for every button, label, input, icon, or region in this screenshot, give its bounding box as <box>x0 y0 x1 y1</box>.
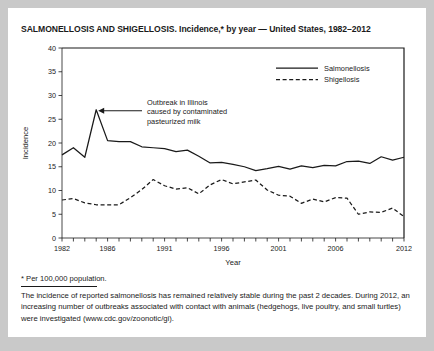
x-tick-label: 2012 <box>396 244 412 253</box>
series-line-shigellosis <box>62 180 404 217</box>
y-tick-label: 35 <box>48 67 56 76</box>
x-tick-label: 1991 <box>157 244 173 253</box>
y-tick-label: 40 <box>48 44 56 53</box>
annotation-arrow-head <box>98 108 104 114</box>
legend: SalmonellosisShigellosis <box>276 64 370 85</box>
x-tick-label: 1996 <box>214 244 230 253</box>
y-axis-label: Incidence <box>21 127 30 160</box>
x-tick-label: 1986 <box>100 244 116 253</box>
annotation-line: caused by contaminated <box>147 107 227 116</box>
footnote-divider <box>21 286 97 287</box>
page-title: SALMONELLOSIS AND SHIGELLOSIS. Incidence… <box>21 24 417 34</box>
y-tick-label: 30 <box>48 91 56 100</box>
y-tick-label: 10 <box>48 186 56 195</box>
y-tick-label: 15 <box>48 162 56 171</box>
footnote-body: The incidence of reported salmonellosis … <box>21 290 413 323</box>
legend-label: Shigellosis <box>324 75 360 84</box>
x-axis-label: Year <box>225 258 241 267</box>
figure-card: SALMONELLOSIS AND SHIGELLOSIS. Incidence… <box>8 8 426 337</box>
y-tick-label: 5 <box>52 210 56 219</box>
series-group <box>62 110 404 217</box>
annotation-group: Outbreak in Illinoiscaused by contaminat… <box>98 98 227 126</box>
y-tick-label: 20 <box>48 139 56 148</box>
chart-container: 0510152025303540 19821986199119962001200… <box>14 36 418 268</box>
x-tick-label: 2006 <box>328 244 344 253</box>
annotation-line: Outbreak in Illinois <box>147 98 208 107</box>
y-tick-label: 25 <box>48 115 56 124</box>
annotation-line: pasteurized milk <box>147 117 201 126</box>
footnote-asterisk: * Per 100,000 population. <box>21 274 413 284</box>
incidence-line-chart: 0510152025303540 19821986199119962001200… <box>14 36 418 268</box>
footnote-block: * Per 100,000 population. The incidence … <box>21 274 413 324</box>
x-tick-label: 2001 <box>271 244 287 253</box>
y-axis-group: 0510152025303540 <box>48 44 62 243</box>
series-line-salmonellosis <box>62 110 404 171</box>
y-tick-label: 0 <box>52 234 56 243</box>
legend-label: Salmonellosis <box>324 64 370 73</box>
x-tick-label: 1982 <box>54 244 70 253</box>
x-axis-group: 1982198619911996200120062012 <box>54 238 412 253</box>
